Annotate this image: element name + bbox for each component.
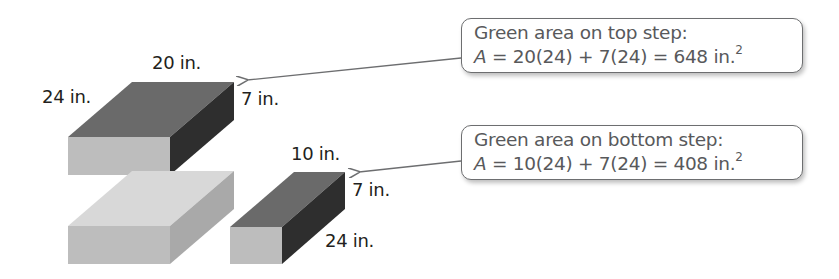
- top-width-label: 24 in.: [42, 86, 91, 107]
- callout-top-step: Green area on top step: A = 20(24) + 7(2…: [461, 18, 803, 73]
- small-height-label: 7 in.: [352, 179, 390, 200]
- small-depth-label: 24 in.: [325, 230, 374, 251]
- arrow-bottom: [359, 161, 461, 172]
- callout-title: Green area on bottom step:: [474, 128, 794, 152]
- callout-title: Green area on top step:: [474, 21, 794, 45]
- small-length-label: 10 in.: [291, 143, 340, 164]
- bottom-step-block: [68, 171, 234, 264]
- top-step-block: [68, 82, 234, 175]
- callout-formula: A = 10(24) + 7(24) = 408 in.2: [474, 152, 794, 176]
- arrow-top: [247, 58, 461, 80]
- top-length-label: 20 in.: [152, 52, 201, 73]
- top-height-label: 7 in.: [241, 88, 279, 109]
- callout-bottom-step: Green area on bottom step: A = 10(24) + …: [461, 125, 803, 180]
- callout-formula: A = 20(24) + 7(24) = 648 in.2: [474, 45, 794, 69]
